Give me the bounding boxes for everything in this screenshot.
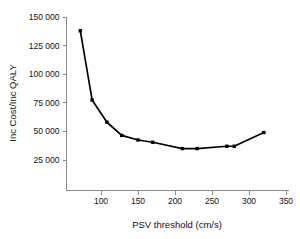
chart-axes [67,17,289,191]
data-point-marker [79,29,82,32]
data-series [79,29,266,150]
data-point-marker [181,147,184,150]
data-point-marker [225,145,228,148]
y-tick-label: 50 000 [34,126,60,136]
data-point-marker [196,147,199,150]
data-point-marker [136,138,139,141]
chart-container: 100150200250300350 25 00050 00075 000100… [0,0,300,239]
series-line [80,31,264,149]
x-axis-ticks: 100150200250300350 [94,191,293,206]
data-point-marker [151,141,154,144]
x-tick-label: 100 [94,196,108,206]
data-point-marker [105,121,108,124]
x-tick-label: 250 [205,196,219,206]
data-point-marker [120,134,123,137]
y-tick-label: 150 000 [29,12,60,22]
data-point-marker [233,145,236,148]
x-tick-label: 150 [131,196,145,206]
y-tick-label: 100 000 [29,69,60,79]
x-axis-title: PSV threshold (cm/s) [132,219,222,230]
data-point-marker [90,98,93,101]
x-tick-label: 300 [242,196,256,206]
line-chart: 100150200250300350 25 00050 00075 000100… [0,0,300,239]
y-tick-label: 125 000 [29,41,60,51]
axis-spine [67,17,289,191]
x-tick-label: 350 [279,196,293,206]
y-axis-ticks: 25 00050 00075 000100 000125 000150 000 [29,12,67,165]
y-axis-title: Inc Cost/Inc QALY [7,64,18,142]
y-tick-label: 25 000 [34,155,60,165]
x-tick-label: 200 [168,196,182,206]
data-point-marker [262,131,265,134]
y-tick-label: 75 000 [34,98,60,108]
